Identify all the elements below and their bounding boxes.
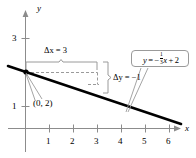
x-tick-label-4: 4 <box>118 137 123 146</box>
delta-x-brace <box>26 60 97 71</box>
delta-x-annotation: Δx = 3 <box>44 46 67 55</box>
equation-variable: x <box>163 55 167 65</box>
delta-y-guide <box>88 73 99 85</box>
intercept-point-label: (0, 2) <box>33 99 53 108</box>
equation-lhs: y <box>143 55 147 65</box>
x-tick-label-1: 1 <box>46 137 51 146</box>
equation-plus: + <box>168 55 173 65</box>
y-tick-label-3: 3 <box>12 34 17 43</box>
graph-figure: y x 3 1 1 2 3 4 5 6 Δx = 3 Δy = −1 (0, 2… <box>0 0 196 158</box>
x-tick-label-3: 3 <box>94 137 99 146</box>
x-tick-label-6: 6 <box>166 137 171 146</box>
delta-y-annotation: Δy = −1 <box>113 73 141 82</box>
x-tick-label-5: 5 <box>142 137 147 146</box>
y-tick-label-1: 1 <box>12 102 17 111</box>
equation-callout-box: y=−13x+2 <box>131 50 189 67</box>
equation-equals: = <box>148 55 153 65</box>
plot-line <box>8 66 181 124</box>
equation-text: y=−13x+2 <box>132 51 190 68</box>
delta-y-brace <box>103 62 111 93</box>
x-tick-label-2: 2 <box>70 137 75 146</box>
equation-fraction: 13 <box>160 52 163 65</box>
graph-canvas <box>0 0 196 158</box>
y-axis <box>23 10 29 152</box>
x-axis-label: x <box>185 124 189 133</box>
y-axis-label: y <box>37 4 41 13</box>
equation-minus: − <box>155 55 160 65</box>
equation-denominator: 3 <box>160 58 163 65</box>
equation-constant: 2 <box>175 55 179 65</box>
x-axis <box>8 126 181 132</box>
